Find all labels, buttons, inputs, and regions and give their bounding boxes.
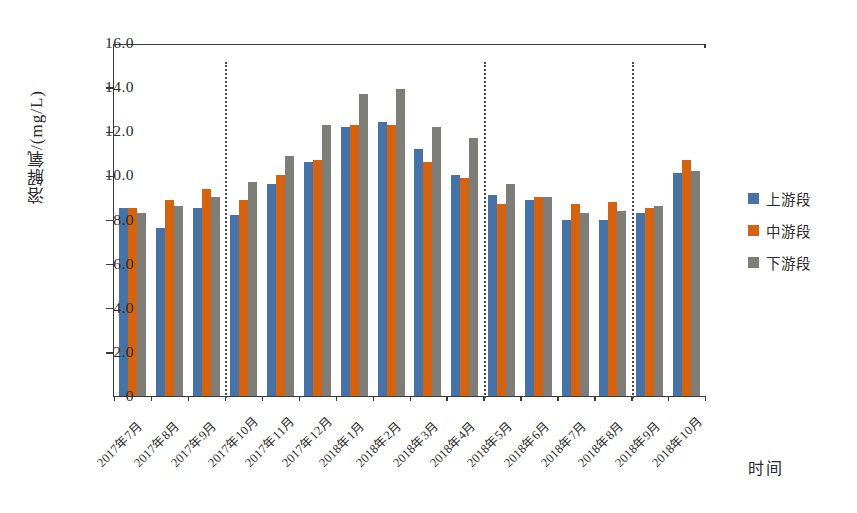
legend-swatch [748,225,759,236]
bar-下游段 [359,94,368,396]
bar-下游段 [691,171,700,396]
y-axis-tick-label: 10.0 [105,166,134,184]
bar-group [299,45,336,396]
bar-中游段 [165,200,174,396]
bar-中游段 [202,189,211,396]
bar-下游段 [617,211,626,396]
section-divider [632,62,634,398]
bar-上游段 [193,208,202,396]
y-axis-tick-label: 14.0 [105,78,134,96]
legend-swatch [748,193,759,204]
x-axis-tick [373,396,374,401]
y-axis-tick-label: 4.0 [113,299,134,317]
bar-group [520,45,557,396]
bar-上游段 [414,149,423,396]
legend-item[interactable]: 中游段 [748,220,811,241]
bar-下游段 [432,127,441,396]
x-axis-title: 时间 [748,455,784,479]
x-axis-tick [262,396,263,401]
x-axis-tick [668,396,669,401]
y-axis-tick-label: 8.0 [113,211,134,229]
bar-上游段 [156,228,165,396]
bar-中游段 [423,162,432,396]
y-axis-tick-label: 16.0 [105,34,134,52]
bar-上游段 [304,162,313,396]
bar-group [594,45,631,396]
bar-中游段 [534,197,543,396]
bar-上游段 [525,200,534,396]
bar-group [225,45,262,396]
legend-swatch [748,257,759,268]
y-axis-tick-label: 6.0 [113,255,134,273]
bar-下游段 [654,206,663,396]
y-axis-tick [106,220,113,221]
bar-上游段 [378,122,387,396]
section-divider [484,62,486,398]
bar-下游段 [174,206,183,396]
x-axis-tick [410,396,411,401]
y-axis-tick [106,308,113,309]
section-divider [225,62,227,398]
bar-中游段 [608,202,617,396]
bar-下游段 [211,197,220,396]
bar-group [631,45,668,396]
bar-下游段 [248,182,257,396]
bar-中游段 [276,175,285,396]
x-axis-tick [114,396,115,401]
x-axis-labels: 2017年7月2017年8月2017年9月2017年10月2017年11月201… [113,402,705,492]
bar-group [188,45,225,396]
x-axis-tick [520,396,521,401]
bar-中游段 [350,125,359,396]
x-axis-tick [705,396,706,401]
bar-group [410,45,447,396]
bar-下游段 [506,184,515,396]
bar-中游段 [497,204,506,396]
y-axis-tick [106,352,113,353]
y-axis-tick [106,264,113,265]
x-axis-tick [299,396,300,401]
bar-下游段 [469,138,478,396]
plot-right-cap [704,44,705,48]
bar-上游段 [267,184,276,396]
bar-中游段 [645,208,654,396]
bar-下游段 [137,213,146,396]
legend-label: 上游段 [766,188,811,209]
legend: 上游段中游段下游段 [748,188,811,284]
bar-group [151,45,188,396]
bar-中游段 [313,160,322,396]
bar-下游段 [543,197,552,396]
bar-上游段 [488,195,497,396]
legend-label: 下游段 [766,252,811,273]
bar-上游段 [230,215,239,396]
bar-中游段 [387,125,396,396]
bar-上游段 [341,127,350,396]
bar-上游段 [599,220,608,397]
bar-中游段 [460,178,469,396]
x-axis-tick [336,396,337,401]
legend-item[interactable]: 上游段 [748,188,811,209]
bar-中游段 [682,160,691,396]
x-axis-tick [594,396,595,401]
bar-group [483,45,520,396]
bar-中游段 [239,200,248,396]
bar-中游段 [571,204,580,396]
bar-group [557,45,594,396]
bar-下游段 [322,125,331,396]
bar-group [373,45,410,396]
legend-item[interactable]: 下游段 [748,252,811,273]
bar-上游段 [451,175,460,396]
bar-下游段 [580,213,589,396]
y-axis-tick-label: 2.0 [113,343,134,361]
plot-area [113,44,705,397]
y-axis-tick-label: 12.0 [105,122,134,140]
bar-group [336,45,373,396]
legend-label: 中游段 [766,220,811,241]
bar-group [262,45,299,396]
y-axis-title: 溶解氧/(mg/L) [24,90,54,204]
bar-group [668,45,705,396]
bar-下游段 [285,156,294,396]
bar-下游段 [396,89,405,396]
bar-上游段 [562,220,571,397]
x-axis-tick [557,396,558,401]
x-axis-tick [188,396,189,401]
